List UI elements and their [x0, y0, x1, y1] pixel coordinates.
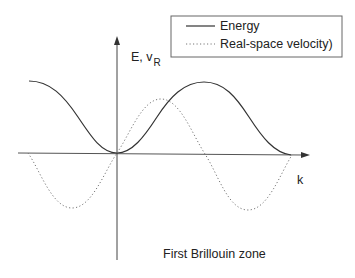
energy-curve	[29, 81, 291, 155]
y-axis	[114, 36, 120, 260]
y-axis-label-main: E, v	[131, 50, 153, 64]
legend: Energy Real-space velocity)	[171, 16, 342, 57]
plot-canvas: k E, vR Energy Real-space velocity) Firs…	[0, 0, 355, 278]
y-axis-arrow-icon	[114, 36, 120, 45]
y-axis-label: E, vR	[131, 50, 161, 68]
x-axis-arrow-icon	[301, 152, 310, 158]
brillouin-zone-figure: k E, vR Energy Real-space velocity) Firs…	[0, 0, 355, 278]
legend-energy-label: Energy	[220, 19, 260, 33]
x-axis-label: k	[297, 173, 304, 187]
brillouin-zone-caption: First Brillouin zone	[163, 247, 266, 261]
legend-velocity-label: Real-space velocity)	[220, 37, 333, 51]
y-axis-label-subscript: R	[154, 57, 161, 68]
x-axis	[18, 152, 310, 158]
